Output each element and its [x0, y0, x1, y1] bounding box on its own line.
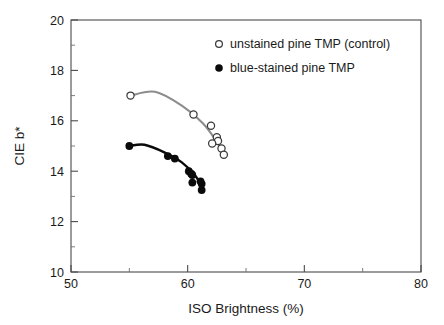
y-tick-label: 20: [50, 14, 64, 28]
x-tick-label: 70: [297, 277, 311, 291]
y-tick-label: 12: [50, 215, 64, 229]
y-axis-title-group: CIE b*: [12, 126, 27, 166]
chart-figure: 50607080 101214161820 ISO Brightness (%)…: [0, 0, 444, 325]
chart-legend: unstained pine TMP (control)blue-stained…: [215, 37, 390, 75]
scatter-plot-svg: 50607080 101214161820 ISO Brightness (%)…: [0, 0, 444, 325]
data-point-series-0: [220, 151, 227, 158]
data-point-series-1: [188, 179, 196, 187]
series-data-points: [125, 92, 227, 194]
y-tick-label: 14: [50, 165, 64, 179]
y-tick-label: 10: [50, 266, 64, 280]
data-point-series-1: [171, 155, 179, 163]
data-point-series-0: [209, 140, 216, 147]
y-axis-minor-ticks: [71, 45, 75, 247]
y-tick-label: 16: [50, 114, 64, 128]
series-fit-curves: [129, 91, 225, 187]
x-tick-label: 80: [414, 277, 428, 291]
legend-label-1: blue-stained pine TMP: [230, 61, 355, 75]
data-point-series-0: [207, 122, 214, 129]
data-point-series-0: [127, 92, 134, 99]
data-point-series-1: [125, 142, 133, 150]
y-axis-title: CIE b*: [12, 126, 27, 166]
x-axis-tick-labels: 50607080: [64, 277, 428, 291]
x-axis-title: ISO Brightness (%): [188, 301, 304, 316]
data-point-series-0: [190, 111, 197, 118]
legend-label-0: unstained pine TMP (control): [230, 37, 390, 51]
x-axis-minor-ticks: [129, 268, 362, 272]
data-point-series-1: [188, 171, 196, 179]
data-point-series-1: [198, 186, 206, 194]
y-tick-label: 18: [50, 64, 64, 78]
legend-marker-open-circle-icon: [216, 41, 223, 48]
plot-frame: [71, 20, 421, 272]
x-tick-label: 60: [181, 277, 195, 291]
data-point-series-1: [164, 152, 172, 160]
x-tick-label: 50: [64, 277, 78, 291]
y-axis-tick-labels: 101214161820: [50, 14, 64, 280]
legend-marker-filled-circle-icon: [215, 64, 223, 72]
